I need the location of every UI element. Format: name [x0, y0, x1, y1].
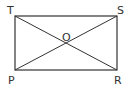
vertex-label-t: T [6, 4, 14, 17]
vertex-label-s: S [117, 4, 124, 17]
vertex-label-p: P [8, 74, 15, 87]
center-label-o: O [62, 31, 71, 44]
rectangle-diagram: T S P R O [0, 0, 128, 90]
vertex-label-r: R [114, 74, 122, 87]
